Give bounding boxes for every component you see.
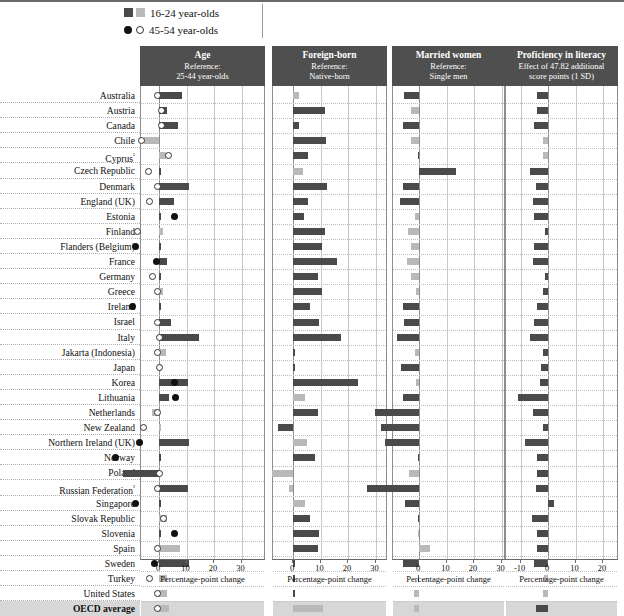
row-separator xyxy=(273,194,386,195)
axis-tick xyxy=(347,559,348,563)
row-separator xyxy=(141,375,264,376)
x-axis-line xyxy=(272,559,387,560)
data-bar xyxy=(293,379,358,386)
data-bar xyxy=(293,394,305,401)
axis-tick-label: 0 xyxy=(406,564,430,573)
data-bar xyxy=(418,515,420,522)
axis-tick xyxy=(320,559,321,563)
data-bar xyxy=(293,439,307,446)
data-bar xyxy=(367,485,419,492)
data-bar xyxy=(293,258,337,265)
light-circle-icon xyxy=(136,26,144,34)
country-label: United States xyxy=(0,586,140,601)
data-bar xyxy=(411,273,419,280)
gridline xyxy=(603,86,604,559)
data-marker xyxy=(138,137,145,144)
country-label: Finland xyxy=(0,224,140,239)
data-bar xyxy=(159,273,161,280)
data-bar xyxy=(293,303,310,310)
data-marker xyxy=(156,470,163,477)
country-label: Northern Ireland (UK) xyxy=(0,435,140,450)
axis-tick xyxy=(241,559,242,563)
country-label: France xyxy=(0,254,140,269)
data-bar xyxy=(416,288,419,295)
row-separator xyxy=(141,269,264,270)
data-bar xyxy=(548,500,554,507)
data-marker xyxy=(156,334,163,341)
data-bar xyxy=(400,198,419,205)
row-separator xyxy=(141,390,264,391)
row-separator xyxy=(141,526,264,527)
data-marker xyxy=(153,258,160,265)
row-separator xyxy=(141,481,264,482)
data-bar xyxy=(293,122,299,129)
row-separator xyxy=(393,435,504,436)
axis-tick-label: 0 xyxy=(535,564,559,573)
legend: 16-24 year-olds 45-54 year-olds xyxy=(124,4,263,38)
panel-subtitle-2: Native-born xyxy=(309,72,349,82)
data-marker xyxy=(134,228,141,235)
row-separator xyxy=(393,284,504,285)
data-marker xyxy=(172,394,179,401)
data-bar xyxy=(293,107,325,114)
row-separator xyxy=(393,375,504,376)
data-bar xyxy=(293,454,315,461)
data-bar xyxy=(159,183,189,190)
data-bar xyxy=(278,424,293,431)
data-bar xyxy=(530,334,548,341)
data-bar xyxy=(375,409,419,416)
row-separator xyxy=(273,481,386,482)
data-bar xyxy=(159,243,161,250)
data-bar xyxy=(533,198,548,205)
x-axis-line xyxy=(392,559,505,560)
country-label: Denmark xyxy=(0,179,140,194)
row-separator xyxy=(393,496,504,497)
data-bar xyxy=(293,198,308,205)
row-separator xyxy=(141,420,264,421)
axis-tick xyxy=(501,559,502,563)
row-separator xyxy=(506,239,617,240)
data-bar xyxy=(408,228,419,235)
data-bar xyxy=(293,92,299,99)
row-separator xyxy=(506,526,617,527)
data-bar xyxy=(407,258,419,265)
axis-tick-label: 20 xyxy=(590,564,614,573)
row-separator xyxy=(393,405,504,406)
plot-panel-1 xyxy=(140,86,265,559)
row-separator xyxy=(393,194,504,195)
data-bar xyxy=(536,183,548,190)
row-separator xyxy=(393,179,504,180)
row-separator xyxy=(141,254,264,255)
panel-title: Proficiency in literacy xyxy=(517,50,606,62)
data-marker xyxy=(156,364,163,371)
axis-tick xyxy=(575,559,576,563)
data-bar xyxy=(537,454,548,461)
data-bar xyxy=(293,319,319,326)
data-bar xyxy=(381,424,420,431)
row-separator xyxy=(141,164,264,165)
data-marker xyxy=(165,152,172,159)
country-label: Ireland xyxy=(0,299,140,314)
dark-square-icon xyxy=(124,8,133,17)
axis-tick-label: 10 xyxy=(308,564,332,573)
axis-tick-label: 10 xyxy=(174,564,198,573)
axis-tick-label: 30 xyxy=(363,564,387,573)
data-bar xyxy=(540,379,548,386)
row-separator xyxy=(141,405,264,406)
row-separator xyxy=(506,466,617,467)
light-square-icon xyxy=(136,8,145,17)
row-separator xyxy=(506,164,617,165)
data-bar xyxy=(385,439,419,446)
country-label: Czech Republic xyxy=(0,163,140,178)
country-label: Japan xyxy=(0,360,140,375)
oecd-average-band xyxy=(393,601,504,616)
axis-tick xyxy=(547,559,548,563)
panel-subtitle-1: Reference: xyxy=(184,62,220,72)
row-separator xyxy=(273,239,386,240)
country-label: Greece xyxy=(0,284,140,299)
data-bar xyxy=(159,168,161,175)
row-separator xyxy=(273,435,386,436)
data-bar xyxy=(403,122,420,129)
data-bar xyxy=(159,92,182,99)
data-marker xyxy=(171,379,178,386)
